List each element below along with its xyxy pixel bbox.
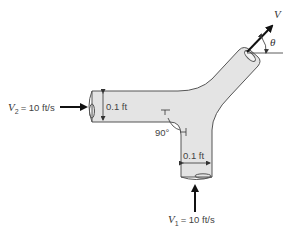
v1-label: V1= 10 ft/s: [168, 213, 215, 227]
diameter-label-1: 0.1 ft: [183, 150, 204, 161]
diameter-label-2: 0.1 ft: [106, 101, 127, 112]
v2-label: V2= 10 ft/s: [8, 101, 55, 115]
outlet-velocity-label: V: [274, 8, 282, 20]
theta-label: θ: [270, 36, 276, 48]
y-pipe-diagram: 0.1 ft 0.1 ft 90° V2= 10 ft/s V1= 10 ft/…: [0, 0, 290, 232]
pipe-body: [92, 48, 260, 178]
outlet-velocity-arrow: [247, 26, 272, 52]
angle-90-label: 90°: [155, 127, 170, 138]
